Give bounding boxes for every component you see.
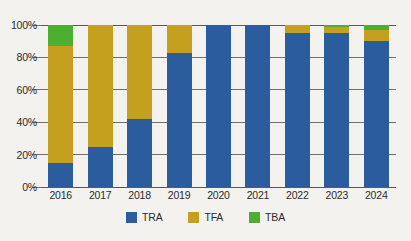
x-axis-tick-label-2020: 2020 [199, 190, 238, 201]
legend-swatch-icon [188, 212, 199, 223]
plot-area [41, 25, 396, 187]
x-axis-tick-label-2023: 2023 [317, 190, 356, 201]
x-axis-tick-label-2024: 2024 [357, 190, 396, 201]
bar-stack [285, 25, 310, 187]
y-axis-tick-label: 40% [1, 117, 37, 128]
bar-segment-tra-2023[interactable] [324, 33, 349, 187]
bar-segment-tba-2023[interactable] [324, 25, 349, 27]
y-axis-tick-label: 0% [1, 182, 37, 193]
bar-segment-tra-2021[interactable] [245, 25, 270, 187]
bar-group-2017[interactable] [88, 25, 113, 187]
bar-segment-tba-2016[interactable] [48, 25, 73, 46]
bar-stack [324, 25, 349, 187]
y-axis-tick-label: 80% [1, 52, 37, 63]
bar-stack [167, 25, 192, 187]
bar-segment-tfa-2017[interactable] [88, 25, 113, 147]
bar-segment-tfa-2023[interactable] [324, 27, 349, 33]
bars-layer [41, 25, 396, 187]
bar-segment-tra-2020[interactable] [206, 25, 231, 187]
y-axis-tick-label: 60% [1, 85, 37, 96]
bar-stack [48, 25, 73, 187]
bar-stack [245, 25, 270, 187]
bar-group-2020[interactable] [206, 25, 231, 187]
bar-segment-tra-2016[interactable] [48, 163, 73, 187]
bar-segment-tra-2019[interactable] [167, 53, 192, 187]
y-axis-tick-label: 20% [1, 150, 37, 161]
legend-label: TBA [265, 212, 285, 223]
bar-group-2019[interactable] [167, 25, 192, 187]
legend-swatch-icon [126, 212, 137, 223]
bar-segment-tra-2022[interactable] [285, 33, 310, 187]
bar-group-2023[interactable] [324, 25, 349, 187]
bar-segment-tra-2017[interactable] [88, 147, 113, 187]
bar-stack [88, 25, 113, 187]
bar-segment-tra-2018[interactable] [127, 119, 152, 187]
bar-stack [206, 25, 231, 187]
y-axis-tick-label: 100% [1, 20, 37, 31]
legend-swatch-icon [249, 212, 260, 223]
x-axis: 201620172018201920202021202220232024 [41, 190, 396, 206]
bar-segment-tba-2024[interactable] [364, 25, 389, 30]
bar-segment-tra-2024[interactable] [364, 41, 389, 187]
x-axis-tick-label-2016: 2016 [41, 190, 80, 201]
legend-item-tfa[interactable]: TFA [188, 212, 223, 223]
bar-group-2024[interactable] [364, 25, 389, 187]
bar-segment-tfa-2016[interactable] [48, 46, 73, 163]
x-axis-tick-label-2022: 2022 [278, 190, 317, 201]
chart-legend: TRATFATBA [0, 212, 411, 223]
bar-group-2021[interactable] [245, 25, 270, 187]
bar-group-2018[interactable] [127, 25, 152, 187]
legend-item-tba[interactable]: TBA [249, 212, 285, 223]
legend-label: TFA [204, 212, 223, 223]
bar-segment-tfa-2022[interactable] [285, 25, 310, 33]
legend-item-tra[interactable]: TRA [126, 212, 162, 223]
stacked-bar-chart: 201620172018201920202021202220232024 TRA… [0, 0, 411, 241]
x-axis-tick-label-2018: 2018 [120, 190, 159, 201]
bar-segment-tfa-2024[interactable] [364, 30, 389, 41]
x-axis-tick-label-2021: 2021 [238, 190, 277, 201]
bar-stack [364, 25, 389, 187]
legend-label: TRA [142, 212, 162, 223]
bar-group-2016[interactable] [48, 25, 73, 187]
x-axis-tick-label-2017: 2017 [80, 190, 119, 201]
bar-stack [127, 25, 152, 187]
x-axis-tick-label-2019: 2019 [159, 190, 198, 201]
bar-group-2022[interactable] [285, 25, 310, 187]
bar-segment-tfa-2018[interactable] [127, 25, 152, 119]
bar-segment-tfa-2019[interactable] [167, 25, 192, 53]
